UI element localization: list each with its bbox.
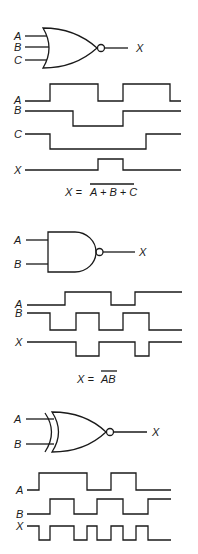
nand-timing-b-waveform <box>27 313 182 330</box>
nand-equation-lhs: X = <box>76 373 94 385</box>
nor-timing-c-label: C <box>14 128 22 140</box>
nand-inverter-bubble <box>96 249 103 256</box>
nor-inverter-bubble <box>98 45 105 52</box>
xnor-timing-x-label: X <box>15 520 24 532</box>
nor-timing-a-waveform <box>25 84 181 101</box>
nand-gate-symbol: A B X <box>13 232 147 272</box>
nand-timing-diagram: A B X <box>14 292 182 356</box>
nor-timing-c-waveform <box>25 134 181 149</box>
nand-equation: X = AB <box>76 371 117 385</box>
xnor-timing-x-waveform <box>27 526 171 540</box>
nand-input-a-label: A <box>13 234 21 246</box>
nor-input-c-label: C <box>14 54 22 66</box>
nand-timing-b-label: B <box>15 307 22 319</box>
xnor-gate-section: A B X A B X <box>13 412 171 540</box>
nand-gate-body <box>48 232 96 272</box>
nor-gate-section: A B C X A B C X X = A + B + C <box>13 28 181 198</box>
nor-timing-x-label: X <box>13 164 22 176</box>
xnor-timing-b-waveform <box>27 499 171 514</box>
nand-timing-a-waveform <box>27 292 182 305</box>
nor-timing-b-waveform <box>25 111 181 126</box>
xnor-timing-diagram: A B X <box>15 473 171 540</box>
nor-equation-lhs: X = <box>64 186 82 198</box>
nand-timing-x-waveform <box>27 342 182 356</box>
xnor-inverter-bubble <box>107 429 114 436</box>
nor-output-label: X <box>135 42 144 54</box>
nor-input-b-label: B <box>14 41 21 53</box>
nor-equation-rhs: A + B + C <box>89 186 137 198</box>
xnor-input-b-label: B <box>14 438 21 450</box>
nand-input-b-label: B <box>14 258 21 270</box>
xnor-gate-body <box>52 412 106 452</box>
xnor-timing-b-label: B <box>16 508 23 520</box>
nor-gate-symbol: A B C X <box>13 28 144 68</box>
xnor-timing-a-waveform <box>27 473 171 490</box>
nor-equation: X = A + B + C <box>64 184 137 198</box>
xnor-gate-symbol: A B X <box>13 412 160 452</box>
nand-output-label: X <box>138 246 147 258</box>
xnor-output-label: X <box>151 426 160 438</box>
nor-timing-b-label: B <box>14 104 21 116</box>
logic-gates-diagram: A B C X A B C X X = A + B + C <box>0 0 198 554</box>
nor-timing-x-waveform <box>25 159 181 170</box>
nor-gate-body <box>43 28 97 68</box>
nand-equation-rhs: AB <box>100 373 116 385</box>
xnor-timing-a-label: A <box>15 484 23 496</box>
nand-gate-section: A B X A B X X = AB <box>13 232 182 385</box>
nand-timing-x-label: X <box>14 336 23 348</box>
xnor-input-a-label: A <box>13 413 21 425</box>
nor-timing-diagram: A B C X <box>13 84 181 176</box>
